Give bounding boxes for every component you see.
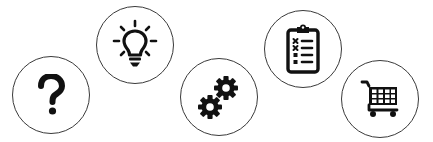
lightbulb-icon: [110, 19, 160, 71]
settings-circle[interactable]: Settings: [180, 58, 258, 136]
gears-icon: [195, 72, 243, 122]
help-circle[interactable]: Help: [12, 56, 90, 134]
question-icon: [36, 74, 66, 116]
ideas-circle[interactable]: Ideas: [96, 6, 174, 84]
cart-circle[interactable]: Shopping cart: [341, 60, 419, 138]
shopping-cart-icon: [360, 79, 400, 119]
clipboard-checklist-icon: [285, 24, 321, 74]
checklist-circle[interactable]: Checklist: [264, 10, 342, 88]
